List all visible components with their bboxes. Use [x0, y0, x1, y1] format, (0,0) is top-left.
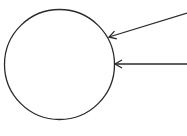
diagram-canvas [0, 0, 187, 136]
arrows-group [109, 13, 187, 68]
lower-arrow [115, 60, 187, 68]
arrow-shaft [109, 13, 187, 37]
diagram-svg [0, 0, 187, 136]
circle-shape [5, 10, 115, 120]
upper-arrow [109, 13, 187, 39]
